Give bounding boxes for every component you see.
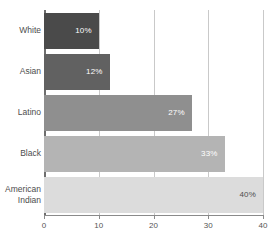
category-label-latino: Latino	[0, 107, 41, 118]
category-label-line: Latino	[0, 107, 41, 118]
bars: 10%12%27%33%40%	[44, 10, 263, 215]
bar-black: 33%	[44, 136, 225, 172]
gridline-40	[263, 10, 264, 215]
bar-row: 12%	[44, 54, 263, 90]
x-tick-label-0: 0	[42, 221, 46, 230]
plot-area: 10%12%27%33%40%	[44, 10, 263, 215]
category-label-line: White	[0, 25, 41, 36]
bar-row: 10%	[44, 13, 263, 49]
bar-row: 40%	[44, 177, 263, 213]
category-label-line: American	[0, 184, 41, 195]
bar-chart: WhiteAsianLatinoBlackAmericanIndian 10%1…	[0, 0, 277, 237]
x-tick-30	[208, 215, 209, 219]
bar-value-label: 12%	[86, 67, 110, 76]
bar-value-label: 40%	[239, 190, 263, 199]
x-tick-label-30: 30	[204, 221, 213, 230]
x-tick-10	[99, 215, 100, 219]
x-tick-0	[44, 215, 45, 219]
bar-asian: 12%	[44, 54, 110, 90]
category-label-white: White	[0, 25, 41, 36]
bar-value-label: 33%	[201, 149, 225, 158]
category-label-asian: Asian	[0, 66, 41, 77]
bar-american-indian: 40%	[44, 177, 263, 213]
x-tick-20	[154, 215, 155, 219]
x-tick-label-10: 10	[94, 221, 103, 230]
bar-latino: 27%	[44, 95, 192, 131]
x-tick-40	[263, 215, 264, 219]
category-axis-labels: WhiteAsianLatinoBlackAmericanIndian	[0, 10, 41, 215]
bar-value-label: 27%	[168, 108, 192, 117]
category-label-line: Black	[0, 148, 41, 159]
category-label-black: Black	[0, 148, 41, 159]
bar-value-label: 10%	[75, 26, 99, 35]
x-tick-label-40: 40	[259, 221, 268, 230]
category-label-american-indian: AmericanIndian	[0, 184, 41, 206]
category-label-line: Asian	[0, 66, 41, 77]
x-tick-label-20: 20	[149, 221, 158, 230]
category-label-line: Indian	[0, 195, 41, 206]
bar-row: 27%	[44, 95, 263, 131]
bar-row: 33%	[44, 136, 263, 172]
bar-white: 10%	[44, 13, 99, 49]
